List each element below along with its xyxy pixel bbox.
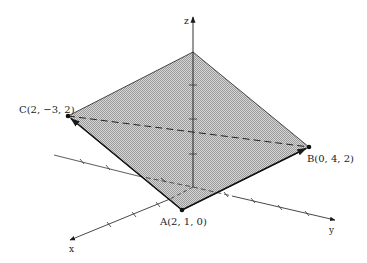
- x-axis-label: x: [69, 244, 74, 254]
- point-B: [307, 145, 312, 150]
- point-B-label: B(0, 4, 2): [307, 153, 354, 164]
- x-axis: [70, 199, 170, 240]
- point-A-label: A(2, 1, 0): [159, 216, 207, 227]
- y-axis-label: y: [328, 225, 335, 235]
- z-axis-label: z: [184, 16, 189, 26]
- point-A: [180, 208, 185, 213]
- diagram-canvas: z x y A(2, 1, 0) B(0, 4, 2) C(2, −3, 2): [0, 0, 367, 263]
- point-C-label: C(2, −3, 2): [19, 104, 75, 115]
- diagram-svg: z x y A(2, 1, 0) B(0, 4, 2) C(2, −3, 2): [0, 0, 367, 263]
- y-axis: [224, 192, 335, 220]
